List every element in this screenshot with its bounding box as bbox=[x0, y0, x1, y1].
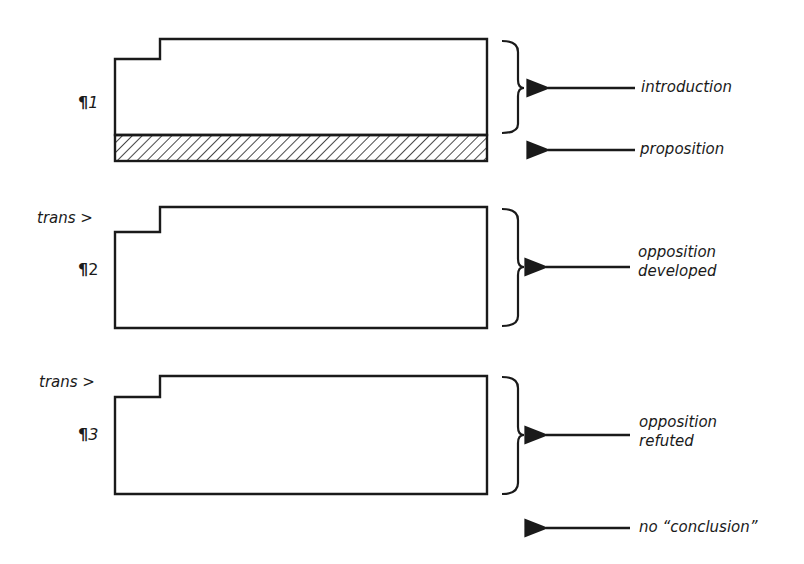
brace-opposition-developed bbox=[502, 209, 524, 326]
paragraph-2-box bbox=[115, 207, 487, 328]
transition-label-2: trans > bbox=[37, 209, 93, 228]
proposition-hatched-band bbox=[115, 135, 487, 161]
label-no-conclusion: no “conclusion” bbox=[639, 518, 758, 537]
transition-label-3: trans > bbox=[39, 373, 95, 392]
pilcrow-icon: ¶ bbox=[78, 93, 88, 112]
brace-introduction bbox=[502, 41, 524, 133]
paragraph-3-box bbox=[115, 376, 487, 494]
paragraph-3-marker: ¶3 bbox=[78, 425, 98, 444]
paragraph-1-marker: ¶1 bbox=[78, 93, 98, 112]
label-opposition-developed: opposition developed bbox=[638, 243, 716, 281]
label-introduction: introduction bbox=[641, 78, 732, 97]
pilcrow-icon: ¶ bbox=[78, 260, 88, 279]
paragraph-1-box bbox=[115, 39, 487, 161]
pilcrow-icon: ¶ bbox=[78, 425, 88, 444]
label-opposition-refuted: opposition refuted bbox=[639, 413, 717, 451]
label-proposition: proposition bbox=[640, 140, 724, 159]
paragraph-2-marker: ¶2 bbox=[78, 260, 98, 279]
brace-opposition-refuted bbox=[502, 377, 524, 494]
